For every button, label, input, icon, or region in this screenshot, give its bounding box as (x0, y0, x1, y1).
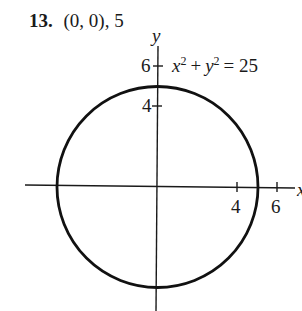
y-tick-label-4: 4 (142, 95, 152, 116)
x-tick-label-4: 4 (231, 196, 241, 217)
eq-y: y (203, 55, 214, 76)
equation-label: x2+y2= 25 (171, 54, 258, 76)
eq-plus: + (190, 55, 201, 76)
eq-y-exp: 2 (214, 54, 220, 68)
eq-x-exp: 2 (180, 54, 186, 68)
circle-graph: 4 6 4 6 y x x2+y2= 25 (0, 0, 302, 311)
eq-equals: = 25 (224, 55, 258, 76)
y-tick-label-6: 6 (141, 55, 151, 76)
x-axis (25, 185, 295, 188)
y-axis-label: y (150, 25, 161, 46)
x-tick-label-6: 6 (271, 196, 281, 217)
x-axis-label: x (296, 179, 302, 200)
